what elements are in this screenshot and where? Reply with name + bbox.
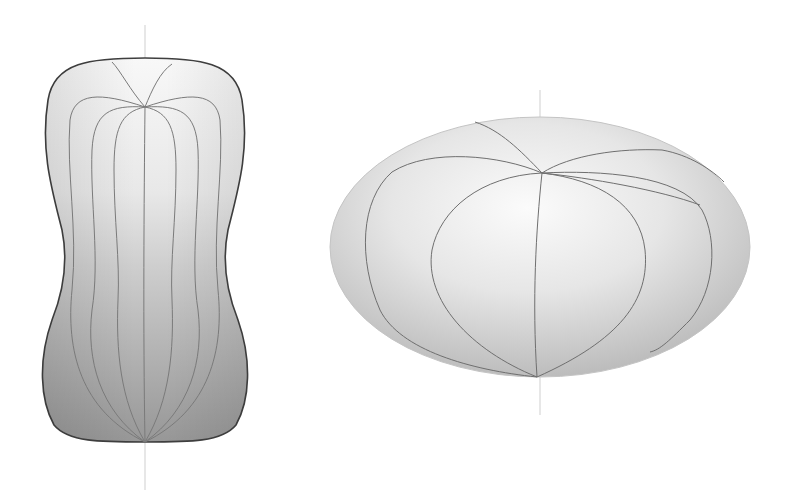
- ellipsoid-body: [330, 117, 750, 377]
- diagram-figure: [0, 0, 787, 498]
- peanut-shape: [42, 25, 247, 490]
- diagram-canvas: [0, 0, 787, 498]
- ellipsoid-shape: [330, 90, 750, 415]
